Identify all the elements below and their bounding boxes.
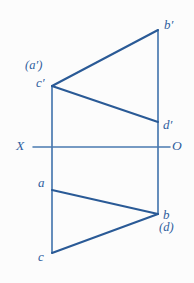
axis-label-x: X [16,139,24,153]
edge-diagonal-c-prime-to-d-prime [52,86,158,122]
edge-diagonal-c-prime-to-b-prime [52,30,158,86]
axis-label-o: O [172,139,182,153]
vertex-label-a: a [38,176,45,189]
vertex-label-c-prime: c′ [36,76,45,89]
edge-diagonal-c-to-b [52,214,158,253]
edge-diagonal-a-to-b [52,190,158,214]
vertex-label-d-prime: d′ [163,118,172,131]
figure-canvas [0,0,194,283]
projection-figure: b′ (a′) c′ d′ X O a b (d) c [0,0,194,283]
vertex-label-c: c [38,250,44,263]
vertex-label-d-paren: (d) [159,221,174,234]
vertex-label-a-prime-paren: (a′) [25,59,42,72]
vertex-label-b-prime: b′ [164,18,173,31]
